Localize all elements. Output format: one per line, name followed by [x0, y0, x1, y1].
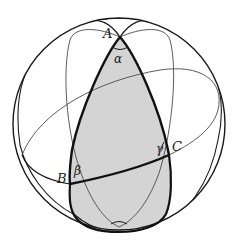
shaded-lune	[69, 37, 171, 232]
angle-label-gamma: γ	[156, 143, 163, 155]
vertex-label-B: B	[57, 172, 67, 185]
spherical-triangle-diagram: A α B β C γ	[0, 0, 238, 247]
angle-label-beta: β	[74, 165, 81, 177]
vertex-label-C: C	[172, 140, 182, 153]
sphere-figure	[0, 0, 238, 247]
angle-label-alpha: α	[114, 53, 122, 65]
vertex-label-A: A	[103, 27, 112, 40]
